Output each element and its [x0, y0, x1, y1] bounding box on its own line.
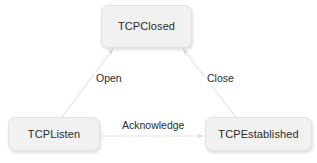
edge-label-open: Open [94, 72, 124, 85]
state-diagram: TCPClosed TCPListen TCPEstablished Open … [0, 0, 317, 163]
state-node-tcplisten[interactable]: TCPListen [8, 117, 100, 151]
state-node-label: TCPClosed [118, 21, 175, 32]
state-node-label: TCPEstablished [218, 129, 298, 140]
state-node-tcpestablished[interactable]: TCPEstablished [205, 117, 312, 151]
state-node-tcpclosed[interactable]: TCPClosed [101, 5, 192, 48]
state-node-label: TCPListen [28, 129, 80, 140]
edge-label-acknowledge: Acknowledge [120, 119, 186, 132]
edge-label-close: Close [205, 72, 236, 85]
